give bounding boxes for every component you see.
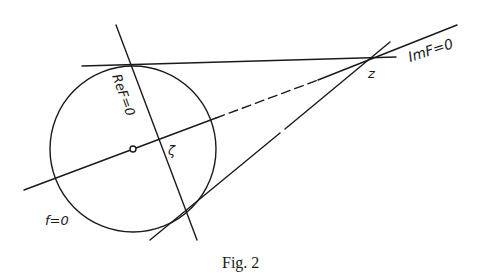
ref-label: ReF=0 — [109, 72, 138, 118]
f-zero-label: f=0 — [45, 213, 69, 228]
f-zero-line-dashed — [216, 80, 318, 118]
imf-label: ImF=0 — [406, 35, 455, 65]
ref-zero-line — [116, 25, 197, 240]
diagram-canvas: ReF=0 ImF=0 f=0 z ζ Fig. 2 — [0, 0, 487, 276]
center-point — [130, 146, 136, 152]
z-label: z — [367, 66, 376, 81]
figure-caption: Fig. 2 — [222, 254, 259, 272]
lower-tangent-line-b — [285, 42, 390, 129]
zeta-label: ζ — [167, 143, 176, 158]
